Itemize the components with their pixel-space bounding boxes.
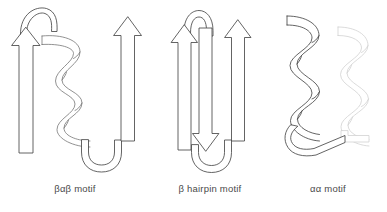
label-aa-motif: αα motif — [268, 183, 387, 194]
bab-arrow-left — [12, 28, 40, 154]
hairpin-arrow-middle — [193, 28, 219, 151]
hairpin-loop-bottom — [192, 140, 232, 173]
bab-helix-back-edge — [42, 44, 90, 147]
protein-motif-figure — [0, 0, 387, 212]
panel-bab — [12, 8, 142, 172]
aa-helix-back-edge-outer — [338, 27, 369, 140]
aa-helix-back-tie-5 — [348, 117, 353, 125]
bab-loop-bottom — [82, 140, 122, 172]
hairpin-arrow-left — [172, 25, 198, 150]
panel-aa — [285, 16, 369, 156]
label-bab-motif: βαβ motif — [0, 183, 150, 194]
label-hairpin-motif: β hairpin motif — [140, 183, 280, 194]
hairpin-arrow-right — [225, 20, 251, 141]
panel-hairpin — [172, 11, 252, 173]
bab-arrow-right — [114, 17, 142, 141]
bab-helix-tie-3 — [62, 72, 67, 80]
